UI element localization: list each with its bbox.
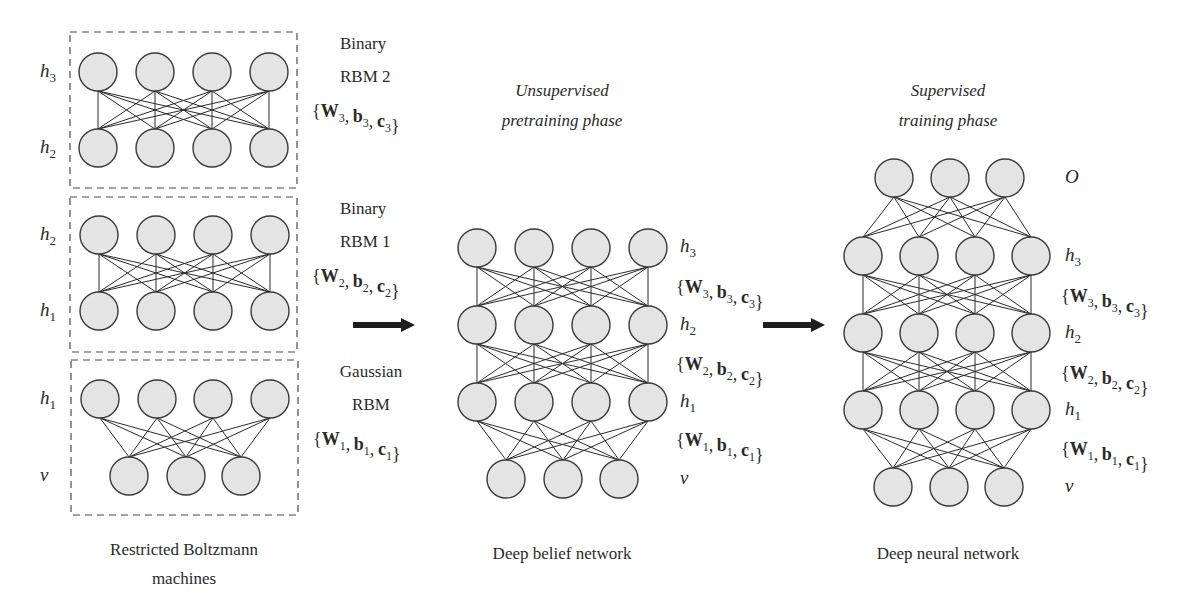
dnn-layer-label: v [1065, 475, 1074, 496]
connection-edge [506, 421, 648, 460]
dnn-params-label: {W1, b1, c1} [1061, 439, 1149, 474]
dbn-layer-label: h3 [680, 235, 696, 260]
arrow-shaft [353, 322, 403, 328]
dnn-layer-label: h1 [1065, 398, 1081, 423]
top-layer-label: h1 [40, 387, 56, 412]
dbn-layer-node [515, 229, 553, 267]
top-layer-node [193, 53, 231, 91]
dnn-params-label: {W3, b3, c3} [1061, 286, 1149, 321]
bottom-layer-node [250, 129, 288, 167]
bottom-layer-label: h1 [40, 299, 56, 324]
dbn-layer-label: h1 [680, 390, 696, 415]
top-layer-label: h2 [40, 223, 56, 248]
dnn-caption: Deep neural network [877, 544, 1020, 563]
rbm-params-label: {W3, b3, c3} [312, 101, 400, 136]
dbn-params-label: {W2, b2, c2} [676, 354, 764, 389]
rbm-type-line2: RBM 1 [340, 232, 391, 251]
rbm-box-rbm2: h3h2BinaryRBM 2{W3, b3, c3} [40, 32, 400, 188]
top-layer-node [80, 216, 118, 254]
dbn-layer-node [458, 383, 496, 421]
bottom-layer-node [136, 129, 174, 167]
connection-edge [863, 197, 894, 237]
rbm-params-label: {W2, b2, c2} [312, 266, 400, 301]
bottom-layer-label: v [40, 464, 49, 485]
dbn-layer-label: h2 [680, 313, 696, 338]
connection-edge [129, 418, 157, 457]
dnn-layer-node [875, 159, 913, 197]
dnn-layer-node [900, 237, 938, 275]
dbn-training-diagram: h3h2BinaryRBM 2{W3, b3, c3}h2h1BinaryRBM… [0, 0, 1199, 603]
dnn-layer-node [844, 237, 882, 275]
dnn-layer-node [874, 468, 912, 506]
top-layer-node [251, 380, 289, 418]
bottom-layer-node [193, 129, 231, 167]
rbm-type-line1: Binary [340, 34, 387, 53]
dbn-layer-node [572, 306, 610, 344]
dbn-layer-label: v [680, 467, 689, 488]
connection-edge [1004, 429, 1031, 468]
dnn-layer-node [844, 391, 882, 429]
bottom-layer-node [167, 457, 205, 495]
arrow-shaft [763, 322, 813, 328]
dnn-title-line2: training phase [899, 111, 998, 130]
rbm-box-gaussian-rbm: h1vGaussianRBM{W1, b1, c1} [40, 360, 403, 515]
connection-edge [477, 421, 506, 460]
arrow-rbm-to-dbn [353, 318, 415, 332]
dnn-layer-node [930, 468, 968, 506]
rbm-caption-line1: Restricted Boltzmann [110, 540, 258, 559]
deep-belief-network-panel: h3h2h1v{W3, b3, c3}{W2, b2, c2}{W1, b1, … [458, 229, 764, 498]
bottom-layer-node [194, 292, 232, 330]
bottom-layer-label: h2 [40, 136, 56, 161]
dnn-layer-node [844, 314, 882, 352]
dnn-layer-label: h2 [1065, 321, 1081, 346]
top-layer-node [194, 380, 232, 418]
bottom-layer-node [110, 457, 148, 495]
dbn-title-line2: pretraining phase [501, 111, 623, 130]
dbn-layer-node [458, 229, 496, 267]
dbn-layer-node [487, 460, 525, 498]
dbn-layer-node [629, 383, 667, 421]
dbn-layer-node [629, 229, 667, 267]
dbn-layer-node [629, 306, 667, 344]
bottom-layer-node [79, 129, 117, 167]
top-layer-node [137, 216, 175, 254]
deep-neural-network-panel: Oh3h2h1v{W3, b3, c3}{W2, b2, c2}{W1, b1,… [844, 159, 1149, 506]
bottom-layer-node [251, 292, 289, 330]
arrow-head-icon [401, 318, 415, 332]
top-layer-node [251, 216, 289, 254]
arrow-dbn-to-dnn [763, 318, 825, 332]
connection-edge [863, 197, 1005, 237]
rbm-type-line2: RBM 2 [340, 67, 391, 86]
rbm-params-label: {W1, b1, c1} [313, 429, 401, 464]
top-layer-label: h3 [40, 60, 56, 85]
connection-edge [619, 421, 648, 460]
top-layer-node [138, 380, 176, 418]
dbn-layer-node [515, 383, 553, 421]
dbn-layer-node [458, 306, 496, 344]
dbn-layer-node [544, 460, 582, 498]
dnn-layer-node [1012, 391, 1050, 429]
connection-edge [241, 418, 270, 457]
dnn-layer-node [900, 314, 938, 352]
top-layer-node [250, 53, 288, 91]
dnn-layer-node [1012, 314, 1050, 352]
dbn-params-label: {W3, b3, c3} [676, 277, 764, 312]
dnn-layer-node [956, 391, 994, 429]
connection-edge [975, 197, 1005, 237]
dbn-layer-node [572, 383, 610, 421]
rbm-type-line1: Binary [340, 199, 387, 218]
rbm-caption-line2: machines [152, 569, 216, 588]
rbm-type-line1: Gaussian [340, 362, 403, 381]
connection-edge [863, 429, 893, 468]
dbn-title-line1: Unsupervised [515, 81, 609, 100]
dbn-layer-node [572, 229, 610, 267]
dnn-layer-node [985, 468, 1023, 506]
bottom-layer-node [80, 292, 118, 330]
bottom-layer-node [137, 292, 175, 330]
dnn-layer-node [956, 314, 994, 352]
connection-edge [506, 421, 534, 460]
dbn-layer-node [600, 460, 638, 498]
arrow-head-icon [811, 318, 825, 332]
dnn-layer-label: h3 [1065, 244, 1081, 269]
top-layer-node [136, 53, 174, 91]
